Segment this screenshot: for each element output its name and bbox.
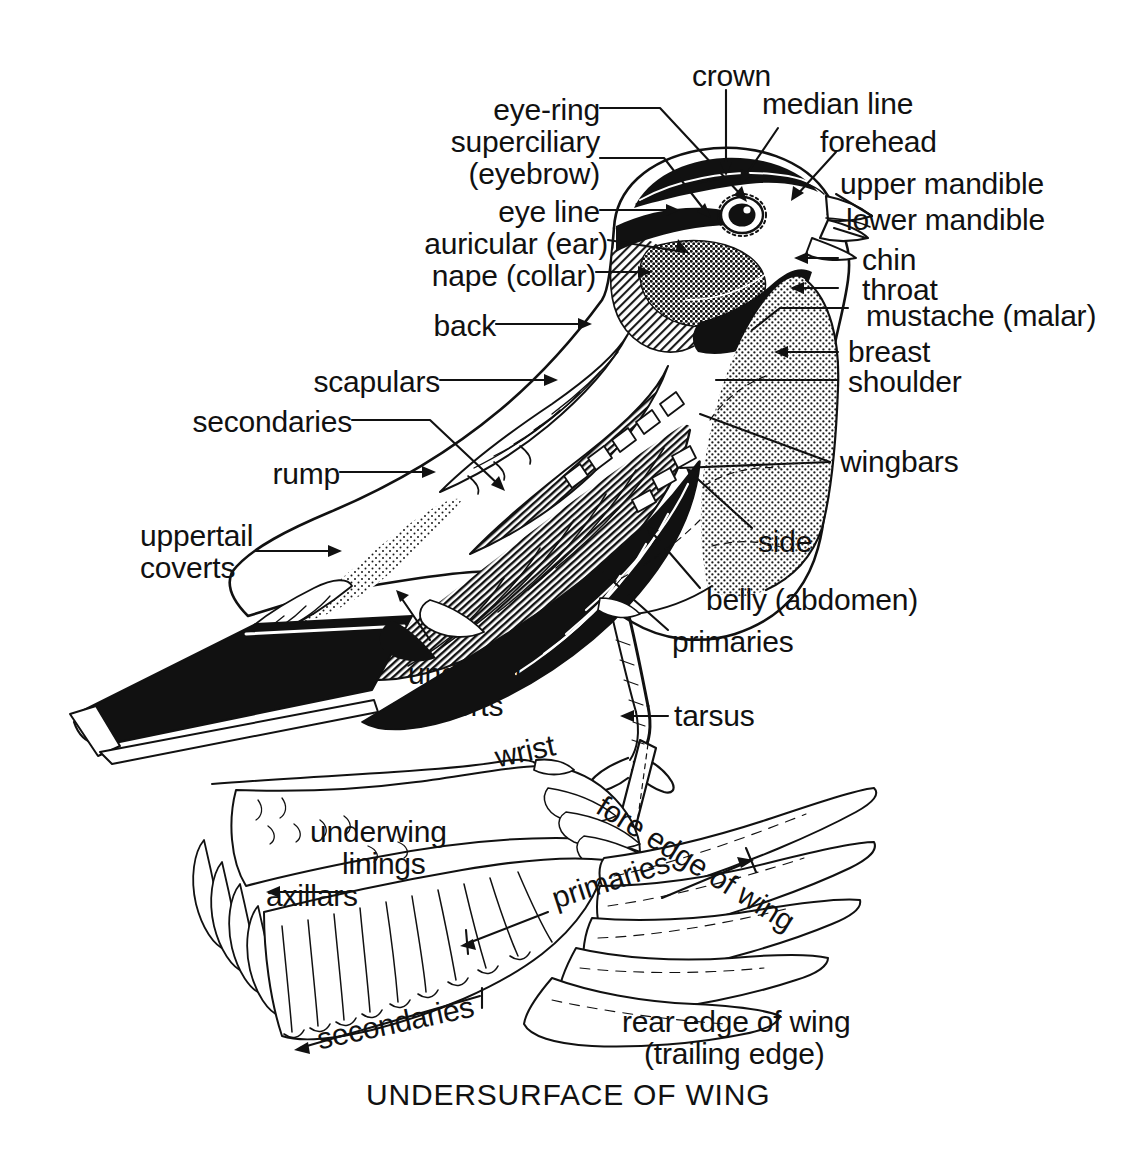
label-tarsus: tarsus: [674, 700, 755, 731]
label-eyebrow: (eyebrow): [300, 158, 600, 189]
label-eye-line: eye line: [300, 196, 600, 227]
label-shoulder: shoulder: [848, 366, 961, 397]
label-back: back: [280, 310, 496, 341]
label-undertail: undertail: [408, 658, 521, 689]
label-median-line: median line: [762, 88, 913, 119]
figure-caption: UNDERSURFACE OF WING: [366, 1078, 770, 1112]
label-belly-abdomen: belly (abdomen): [706, 584, 918, 615]
label-rear-edge-of-wing: rear edge of wing: [622, 1006, 850, 1037]
label-breast: breast: [848, 336, 930, 367]
label-superciliary: superciliary: [300, 126, 600, 157]
bird-anatomy-figure: crown median line forehead upper mandibl…: [0, 0, 1138, 1171]
label-primaries-upper: primaries: [672, 626, 794, 657]
label-axillars: axillars: [266, 880, 358, 911]
label-uppertail-coverts: coverts: [140, 552, 235, 583]
label-side: side: [758, 526, 812, 557]
label-upper-mandible: upper mandible: [840, 168, 1044, 199]
label-trailing-edge: (trailing edge): [644, 1038, 824, 1069]
label-uppertail: uppertail: [140, 520, 253, 551]
label-eye-ring: eye-ring: [300, 94, 600, 125]
label-nape-collar: nape (collar): [280, 260, 596, 291]
label-rump: rump: [140, 458, 340, 489]
label-wingbars: wingbars: [840, 446, 958, 477]
label-chin: chin: [862, 244, 916, 275]
label-auricular-ear: auricular (ear): [280, 228, 608, 259]
label-crown: crown: [692, 60, 771, 91]
label-underwing: underwing: [310, 816, 447, 847]
label-forehead: forehead: [820, 126, 937, 157]
label-mustache-malar: mustache (malar): [866, 300, 1096, 331]
label-secondaries-upper: secondaries: [100, 406, 352, 437]
label-lower-mandible: lower mandible: [846, 204, 1045, 235]
label-underwing-linings: linings: [342, 848, 426, 879]
label-undertail-coverts: coverts: [408, 690, 503, 721]
label-scapulars: scapulars: [180, 366, 440, 397]
